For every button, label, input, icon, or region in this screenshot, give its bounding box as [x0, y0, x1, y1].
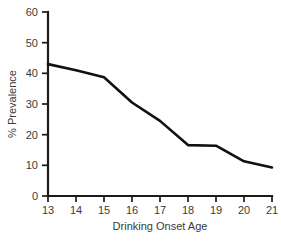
- x-tick-label: 21: [266, 204, 278, 216]
- x-tick-label: 19: [210, 204, 222, 216]
- x-tick-label: 14: [70, 204, 82, 216]
- y-tick-label: 0: [32, 190, 38, 202]
- x-tick-label: 15: [98, 204, 110, 216]
- figure-panel: 0 10 20 30 40 50 60 13 14 15 16 17: [0, 0, 281, 241]
- y-tick-label: 50: [26, 37, 38, 49]
- y-tick-label: 20: [26, 129, 38, 141]
- y-tick-label: 40: [26, 67, 38, 79]
- y-tick-label: 30: [26, 98, 38, 110]
- y-tick-label: 60: [26, 6, 38, 18]
- x-tick-label: 20: [238, 204, 250, 216]
- x-tick-label: 18: [182, 204, 194, 216]
- y-axis-title: % Prevalence: [6, 70, 18, 138]
- data-series-line: [48, 64, 272, 167]
- figure-caption: [3, 231, 279, 239]
- y-axis-tick-labels: 0 10 20 30 40 50 60: [26, 6, 38, 202]
- x-tick-label: 13: [42, 204, 54, 216]
- x-tick-label: 17: [154, 204, 166, 216]
- x-axis-tick-labels: 13 14 15 16 17 18 19 20 21: [42, 204, 278, 216]
- x-tick-label: 16: [126, 204, 138, 216]
- y-tick-label: 10: [26, 159, 38, 171]
- line-chart: 0 10 20 30 40 50 60 13 14 15 16 17: [0, 0, 281, 241]
